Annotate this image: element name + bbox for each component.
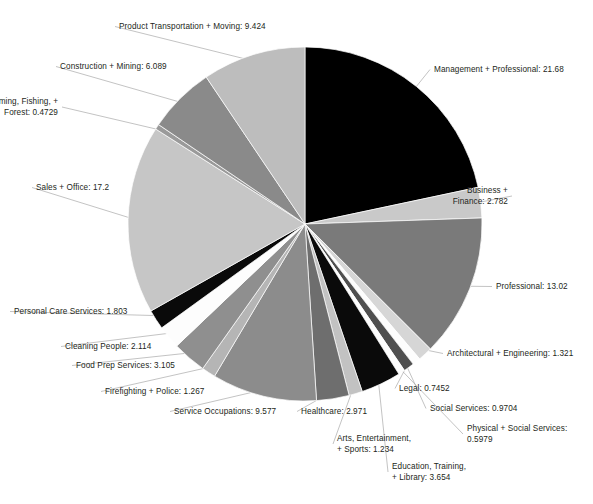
label-line: + Sports: 1.234 [337,444,411,455]
slice-label-architectural-engineering: Architectural + Engineering: 1.321 [447,348,573,359]
slice-label-social-services: Social Services: 0.9704 [430,403,517,414]
label-line: Physical + Social Services: [467,423,567,434]
label-line: Product Transportation + Moving: 9.424 [119,21,266,32]
leader-line [62,107,163,131]
pie-chart-figure: Product Transportation + Moving: 9.424Co… [0,0,593,504]
slice-label-food-prep-services: Food Prep Services: 3.105 [76,360,175,371]
slice-label-firefighting-police: Firefighting + Police: 1.267 [105,386,204,397]
slice-label-construction-mining: Construction + Mining: 6.089 [60,61,167,72]
slice-label-sales-office: Sales + Office: 17.2 [36,182,109,193]
slice-label-education-training-library: Education, Training,+ Library: 3.654 [392,461,466,484]
slice-label-cleaning-people: Cleaning People: 2.114 [65,341,151,352]
label-line: Food Prep Services: 3.105 [76,360,175,371]
slice-label-arts-entertainment-sports: Arts, Entertainment,+ Sports: 1.234 [337,433,411,456]
label-line: Cleaning People: 2.114 [65,341,151,352]
leader-line [398,366,463,434]
label-line: Sales + Office: 17.2 [36,182,109,193]
slice-label-healthcare: Healthcare: 2.971 [301,406,367,417]
leader-line [378,377,388,472]
slice-label-legal: Legal: 0.7452 [399,383,450,394]
label-line: Social Services: 0.9704 [430,403,517,414]
label-line: Healthcare: 2.971 [301,406,367,417]
label-line: Farming, Fishing, + [0,96,58,107]
label-line: Construction + Mining: 6.089 [60,61,167,72]
slice-label-service-occupations: Service Occupations: 9.577 [174,406,276,417]
label-line: + Library: 3.654 [392,472,466,483]
slice-label-product-transportation-moving: Product Transportation + Moving: 9.424 [119,21,266,32]
slice-label-physical-social-services: Physical + Social Services:0.5979 [467,423,567,446]
label-line: Personal Care Services: 1.803 [14,306,127,317]
label-line: Professional: 13.02 [496,281,568,292]
label-line: Finance: 2.782 [453,196,508,207]
label-line: Architectural + Engineering: 1.321 [447,348,573,359]
label-line: 0.5979 [467,434,567,445]
slice-label-business-finance: Business +Finance: 2.782 [453,185,508,208]
label-line: Education, Training, [392,461,466,472]
label-line: Legal: 0.7452 [399,383,450,394]
label-line: Business + [453,185,508,196]
pie-slices-group [128,47,482,401]
label-line: Service Occupations: 9.577 [174,406,276,417]
label-line: Management + Professional: 21.68 [434,64,564,75]
label-line: Arts, Entertainment, [337,433,411,444]
slice-label-farming-fishing-forest: Farming, Fishing, +Forest: 0.4729 [0,96,58,119]
slice-label-personal-care-services: Personal Care Services: 1.803 [14,306,127,317]
slice-label-management-professional: Management + Professional: 21.68 [434,64,564,75]
label-line: Firefighting + Police: 1.267 [105,386,204,397]
slice-label-professional: Professional: 13.02 [496,281,568,292]
label-line: Forest: 0.4729 [0,107,58,118]
